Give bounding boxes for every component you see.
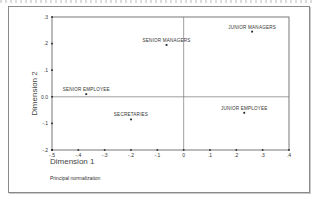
y-tick-mark (51, 149, 53, 151)
x-tick-mark (183, 149, 185, 151)
x-tick-label: .2 (234, 152, 238, 158)
x-axis-label: Dimension 1 (50, 157, 94, 166)
data-point-label: SENIOR MANAGERS (142, 38, 190, 43)
x-tick-mark (130, 149, 132, 151)
x-tick-mark (262, 149, 264, 151)
y-tick-mark (51, 69, 53, 71)
y-tick-label: .1 (44, 67, 48, 73)
y-tick-label: -.1 (42, 120, 48, 126)
x-tick-label: -.2 (128, 152, 134, 158)
y-tick-label: -.2 (42, 147, 48, 153)
y-tick-label: .2 (44, 40, 48, 46)
y-axis-label: Dimension 2 (30, 71, 39, 116)
data-point-label: SENIOR EMPLOYEE (63, 87, 110, 92)
data-point (85, 93, 87, 95)
x-tick-label: -.3 (102, 152, 108, 158)
data-point (130, 119, 132, 121)
x-tick-mark (209, 149, 211, 151)
x-tick-mark (104, 149, 106, 151)
x-tick-label: .3 (261, 152, 265, 158)
data-point-label: JUNIOR EMPLOYEE (221, 106, 268, 111)
x-tick-label: -.1 (154, 152, 160, 158)
y-tick-label: .3 (44, 14, 48, 20)
scatter-plot: -.5-.4-.3-.2-.10.1.2.3.4.3.2.10.0-.1-.2D… (0, 0, 314, 200)
data-point-label: JUNIOR MANAGERS (228, 25, 276, 30)
normalization-note: Principal normalization (50, 175, 100, 181)
x-tick-mark (157, 149, 159, 151)
y-tick-mark (51, 16, 53, 18)
x-tick-mark (288, 149, 290, 151)
x-tick-label: .4 (287, 152, 291, 158)
x-tick-mark (236, 149, 238, 151)
data-point (166, 44, 168, 46)
y-tick-mark (51, 123, 53, 125)
y-tick-mark (51, 43, 53, 45)
data-point (251, 31, 253, 33)
x-tick-label: .1 (208, 152, 212, 158)
data-point (243, 112, 245, 114)
y-tick-label: 0.0 (41, 94, 48, 100)
x-tick-mark (78, 149, 80, 151)
x-tick-label: 0 (182, 152, 185, 158)
y-tick-mark (51, 96, 53, 98)
data-point-label: SECRETARIES (114, 112, 148, 117)
